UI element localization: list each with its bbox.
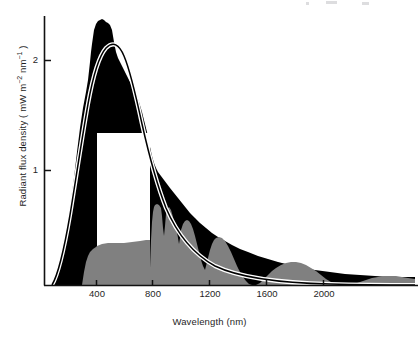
x-axis-title: Wavelength (nm): [0, 316, 419, 327]
y-axis-title-exponent-2: −1: [16, 52, 23, 60]
y-axis-title-mid: nm: [17, 59, 28, 75]
x-tick-label-1600: 1600: [247, 288, 287, 299]
y-axis-title-main: Radiant flux density ( mW m: [17, 84, 28, 207]
x-tick-label-1200: 1200: [190, 288, 230, 299]
x-tick-label-800: 800: [133, 288, 173, 299]
solar-spectrum-figure: 2 1 400 800 1200 1600 2000 Wavelength (n…: [0, 0, 419, 341]
surface-spectrum-area-visible: [97, 240, 150, 285]
x-tick-label-2000: 2000: [304, 288, 344, 299]
y-axis-title-end: ): [17, 45, 28, 51]
y-axis-title-container: Radiant flux density ( mW m−2 nm−1 ): [12, 1, 28, 251]
y-axis-title: Radiant flux density ( mW m−2 nm−1 ): [16, 45, 28, 206]
y-axis-title-exponent-1: −2: [16, 76, 23, 84]
x-tick-label-400: 400: [77, 288, 117, 299]
